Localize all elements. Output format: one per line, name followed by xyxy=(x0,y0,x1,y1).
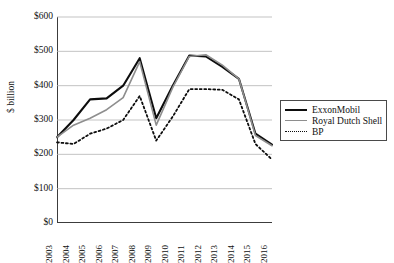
y-tick-label: $500 xyxy=(5,46,53,56)
legend-label: ExxonMobil xyxy=(312,105,360,115)
y-tick-label: $0 xyxy=(5,218,53,228)
x-tick-label: 2003 xyxy=(45,245,54,263)
x-tick-label: 2005 xyxy=(78,245,87,263)
legend-line-icon-exxonmobil xyxy=(285,106,307,114)
line-chart: $ billion $0$100$200$300$400$500$600 200… xyxy=(0,0,394,263)
x-tick-label: 2010 xyxy=(161,245,170,263)
legend-label: Royal Dutch Shell xyxy=(312,116,382,126)
x-tick-label: 2015 xyxy=(243,245,252,263)
x-tick-label: 2007 xyxy=(111,245,120,263)
legend-item-exxonmobil[interactable]: ExxonMobil xyxy=(285,104,382,115)
legend-item-bp[interactable]: BP xyxy=(285,126,382,137)
legend-line-icon-royal-dutch-shell xyxy=(285,117,307,125)
x-tick-label: 2006 xyxy=(95,245,104,263)
x-tick-label: 2012 xyxy=(194,245,203,263)
y-tick-label: $300 xyxy=(5,115,53,125)
y-tick-label: $100 xyxy=(5,184,53,194)
y-tick-label: $400 xyxy=(5,81,53,91)
plot-area xyxy=(57,17,272,223)
plot-svg xyxy=(57,17,272,223)
y-tick-label: $600 xyxy=(5,12,53,22)
x-tick-label: 2004 xyxy=(62,245,71,263)
x-tick-label: 2008 xyxy=(128,245,137,263)
legend-item-royal-dutch-shell[interactable]: Royal Dutch Shell xyxy=(285,115,382,126)
x-tick-label: 2014 xyxy=(227,245,236,263)
x-tick-label: 2013 xyxy=(210,245,219,263)
x-tick-label: 2011 xyxy=(177,245,186,263)
y-axis-tick-labels: $0$100$200$300$400$500$600 xyxy=(3,0,53,263)
x-tick-label: 2009 xyxy=(144,245,153,263)
legend-label: BP xyxy=(312,127,324,137)
legend-line-icon-bp xyxy=(285,128,307,136)
legend: ExxonMobil Royal Dutch Shell BP xyxy=(280,100,387,141)
y-tick-label: $200 xyxy=(5,149,53,159)
x-axis-tick-labels: 2003200420052006200720082009201020112012… xyxy=(57,226,272,263)
x-tick-label: 2016 xyxy=(260,245,269,263)
